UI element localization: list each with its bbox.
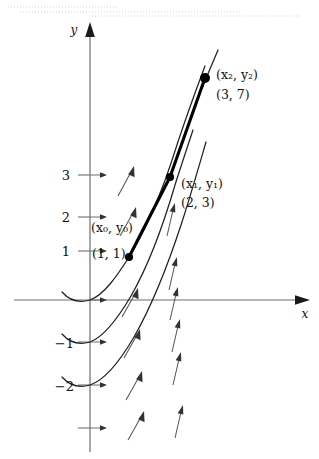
slope-arrow-axis-neg1 <box>90 339 107 344</box>
euler-point-2 <box>200 73 210 83</box>
slope-field-column-a <box>118 166 145 440</box>
point-2-numeric-label: (3, 7) <box>216 87 250 102</box>
x-axis-label: x <box>302 307 309 321</box>
point-0-numeric-label: (1, 1) <box>92 246 126 261</box>
slope-arrow-a-neg1 <box>126 371 143 400</box>
tick-label-neg2: −2 <box>55 379 74 394</box>
slope-arrow-b-neg1 <box>172 319 180 352</box>
slope-arrow-a-3 <box>118 166 135 196</box>
slope-arrow-axis-neg3 <box>90 425 107 430</box>
figure-canvas: 3 2 1 −1 −2 y x (x₂, y₂) (3, 7) (x₁, y₁)… <box>0 0 319 459</box>
point-2-symbolic-label: (x₂, y₂) <box>216 67 258 82</box>
euler-polyline <box>129 78 205 257</box>
tick-label-neg1: −1 <box>55 336 74 351</box>
tick-label-3: 3 <box>62 168 70 183</box>
graph-svg: 3 2 1 −1 −2 y x (x₂, y₂) (3, 7) (x₁, y₁)… <box>0 0 319 459</box>
point-0-symbolic-label: (x₀, y₀) <box>91 220 133 235</box>
slope-arrow-axis-neg2 <box>90 382 107 387</box>
slope-arrow-a-1 <box>122 288 139 317</box>
solution-curve-middle <box>62 130 193 343</box>
tick-label-2: 2 <box>62 210 70 225</box>
slope-arrow-b-neg3 <box>175 405 183 438</box>
scan-artifact <box>8 7 300 16</box>
y-axis-label: y <box>70 23 78 37</box>
point-1-symbolic-label: (x₁, y₁) <box>181 176 223 191</box>
axis-slope-arrows <box>90 172 107 430</box>
point-1-numeric-label: (2, 3) <box>181 195 215 210</box>
y-axis-arrowhead <box>85 22 95 37</box>
slope-arrow-a-neg2 <box>128 411 145 440</box>
euler-point-0 <box>125 253 133 261</box>
x-axis-arrowhead <box>295 295 310 305</box>
slope-arrow-a-0 <box>124 329 141 358</box>
slope-arrow-b-1 <box>169 257 177 290</box>
slope-arrow-axis-0 <box>90 297 107 302</box>
slope-field-column-b <box>167 203 183 438</box>
slope-arrow-axis-2 <box>90 214 107 219</box>
tick-label-1: 1 <box>62 244 70 259</box>
slope-arrow-b-neg2 <box>173 352 181 385</box>
euler-point-1 <box>166 173 174 181</box>
slope-arrow-b-0 <box>170 287 178 320</box>
slope-arrow-axis-3 <box>90 172 107 177</box>
